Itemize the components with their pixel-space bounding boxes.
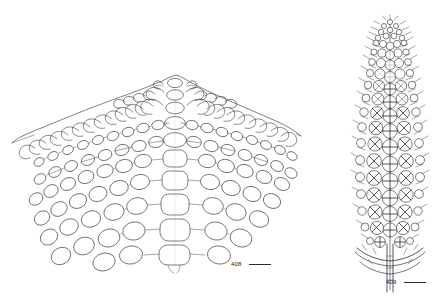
fig409-whorl [353,120,427,139]
fig409-whorl [353,204,427,222]
figure-409 [351,15,429,292]
fig408-row-10 [91,244,232,273]
fig409-whorl [352,187,428,206]
figure-408 [12,75,301,274]
fig408-row-1 [153,78,196,89]
figure-409-label: 409 [386,279,397,285]
fig409-whorl [351,170,429,189]
fig409-whorls [351,37,429,247]
fig409-whorl [355,105,425,123]
fig408-outline [12,75,301,143]
illustration-plate: .ln { fill:none; stroke:#3a3a3a; stroke-… [0,0,448,298]
fig409-whorl [351,153,429,172]
plate-canvas: .ln { fill:none; stroke:#3a3a3a; stroke-… [0,0,448,298]
fig409-whorl [352,136,428,155]
figure-409-scale-bar [404,282,426,283]
figure-408-label: 408 [231,261,242,267]
figure-408-scale-bar [249,264,271,265]
